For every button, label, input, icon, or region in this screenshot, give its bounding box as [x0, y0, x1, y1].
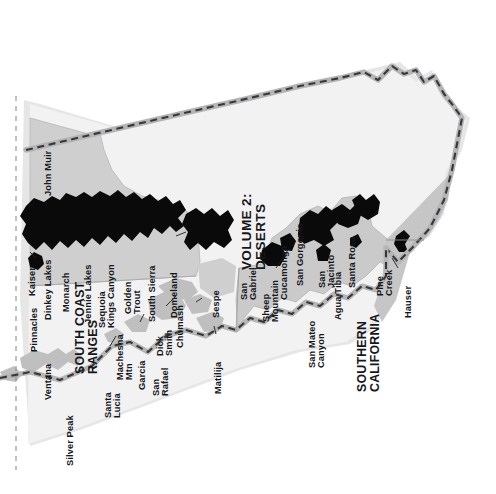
map-canvas [0, 0, 496, 494]
wilderness-overview-map: John Muir Kaiser Dinkey Lakes Monarch Je… [0, 0, 496, 494]
sierra-wilderness-south-lobe [182, 208, 234, 250]
